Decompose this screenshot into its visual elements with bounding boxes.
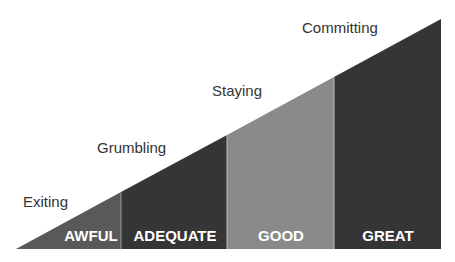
stage-label-grumbling: Grumbling [97, 139, 166, 156]
segment-label-adequate: ADEQUATE [133, 227, 216, 244]
stage-label-staying: Staying [212, 82, 262, 99]
segment-label-good: GOOD [258, 227, 304, 244]
segment-good [227, 77, 334, 249]
segment-label-awful: AWFUL [64, 227, 117, 244]
stage-label-exiting: Exiting [23, 193, 68, 210]
segment-label-great: GREAT [362, 227, 413, 244]
stage-label-committing: Committing [302, 19, 378, 36]
triangle-diagram: AWFUL ADEQUATE GOOD GREAT [0, 0, 455, 262]
segment-great [334, 19, 441, 249]
